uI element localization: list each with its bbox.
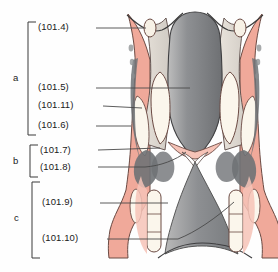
figure-canvas: a b c (101.4) (101.5) (101.11) (101.6) (…	[0, 0, 278, 272]
group-letter-a: a	[13, 72, 18, 83]
callout-label-101-9: (101.9)	[42, 196, 73, 207]
larynx-body	[108, 12, 278, 258]
callout-label-101-7: (101.7)	[40, 144, 71, 155]
callout-label-101-10: (101.10)	[42, 232, 78, 243]
bracket-a	[28, 22, 36, 135]
superior-cornu-right	[234, 19, 246, 37]
tracheal-cartilage-column-left	[147, 190, 161, 252]
group-letter-b: b	[13, 155, 18, 166]
epiglottis	[168, 12, 222, 158]
group-letter-c: c	[14, 212, 19, 223]
group-brackets	[28, 22, 40, 258]
callout-label-101-5: (101.5)	[38, 81, 69, 92]
tracheal-cartilage-column-right	[229, 190, 243, 252]
leader-101-7	[98, 148, 160, 150]
bracket-c	[32, 182, 40, 258]
callout-label-101-8: (101.8)	[40, 161, 71, 172]
bracket-b	[30, 145, 38, 177]
callout-label-101-4: (101.4)	[38, 21, 69, 32]
paraglottic-muscle-right	[216, 151, 239, 182]
callout-label-101-6: (101.6)	[38, 119, 69, 130]
callout-label-101-11: (101.11)	[38, 99, 73, 110]
paraglottic-muscle-left	[151, 151, 174, 182]
